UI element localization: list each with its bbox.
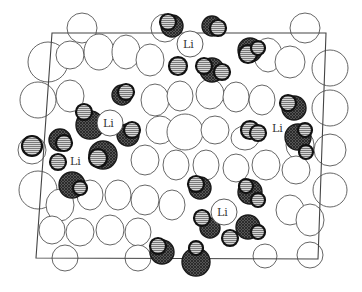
- li-label-bottom: Li: [217, 206, 228, 219]
- li-label-left: Li: [103, 117, 114, 130]
- li-label-far-left: Li: [70, 155, 81, 168]
- structure-diagram: Li Li Li Li Li: [0, 0, 362, 292]
- cluster-top: [160, 14, 265, 82]
- structure-svg: Li Li Li Li Li: [0, 0, 362, 292]
- li-label-top: Li: [183, 38, 194, 51]
- li-label-right: Li: [272, 122, 283, 135]
